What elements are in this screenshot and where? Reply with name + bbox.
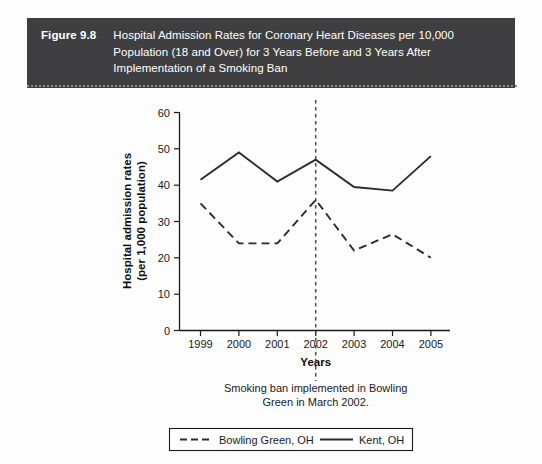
- annotation-line1: Smoking ban implemented in Bowling: [224, 382, 407, 394]
- x-tick-label-2005: 2005: [419, 338, 443, 350]
- legend-label-kent: Kent, OH: [359, 434, 404, 446]
- line-chart: 60 50 40 30 20 10 0 1999 2000 2001 2002 …: [0, 0, 542, 464]
- y-axis-title-line1: Hospital admission rates: [121, 153, 133, 289]
- x-tick-label-2003: 2003: [342, 338, 366, 350]
- annotation-line2: Green in March 2002.: [263, 396, 369, 408]
- y-tick-label-0: 0: [164, 325, 170, 337]
- y-tick-label-10: 10: [158, 288, 170, 300]
- x-tick-label-2000: 2000: [227, 338, 251, 350]
- y-axis-title-line2: (per 1,000 population): [135, 161, 147, 281]
- y-tick-label-30: 30: [158, 216, 170, 228]
- y-axis-ticks: [174, 113, 180, 331]
- y-tick-label-50: 50: [158, 143, 170, 155]
- x-tick-label-2001: 2001: [265, 338, 289, 350]
- x-tick-label-2004: 2004: [380, 338, 404, 350]
- y-tick-label-40: 40: [158, 179, 170, 191]
- y-tick-label-60: 60: [158, 107, 170, 119]
- y-tick-label-20: 20: [158, 252, 170, 264]
- legend-label-bowling-green: Bowling Green, OH: [219, 434, 314, 446]
- chart-container: 60 50 40 30 20 10 0 1999 2000 2001 2002 …: [0, 0, 542, 464]
- chart-legend: Bowling Green, OH Kent, OH: [170, 429, 413, 451]
- x-tick-label-1999: 1999: [188, 338, 212, 350]
